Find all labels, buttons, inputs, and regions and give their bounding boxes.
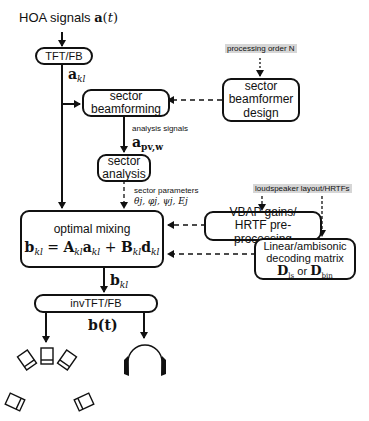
- inv-tft-fb-block: invTFT/FB: [34, 294, 158, 313]
- sector-beamformer-design-block: sector beamformer design: [222, 78, 300, 122]
- hoa-signals-label: HOA signals a(t): [19, 10, 118, 25]
- sector-analysis-block: sector analysis: [97, 154, 151, 182]
- sector-beamforming-block: sector beamforming: [82, 89, 170, 117]
- loudspeaker-layout-label: loudspeaker layout/HRTFs: [253, 184, 352, 193]
- a-pvw-label: apv,w: [132, 134, 163, 150]
- vbap-gains-block: VBAP gains/ HRTF pre-processing: [204, 211, 322, 241]
- processing-order-label: processing order N: [225, 44, 297, 53]
- headphones-icon: [124, 345, 166, 376]
- sector-parameters-label: sector parameters: [134, 186, 198, 195]
- loudspeaker-icon: [5, 348, 94, 411]
- sector-parameter-values: θj, φj, ψj, Ej: [134, 196, 188, 206]
- tft-fb-block: TFT/FB: [35, 47, 93, 65]
- optimal-mixing-block: optimal mixing bkl = Aklakl + Bkldkl: [20, 210, 164, 268]
- a-kl-label: akl: [68, 66, 86, 82]
- analysis-signals-label: analysis signals: [132, 124, 188, 133]
- decoding-matrix-block: Linear/ambisonic decoding matrix Dls or …: [254, 238, 356, 280]
- b-t-label: b(t): [88, 317, 118, 333]
- b-kl-label: bkl: [110, 272, 128, 288]
- mixing-equation: bkl = Aklakl + Bkldkl: [25, 240, 160, 255]
